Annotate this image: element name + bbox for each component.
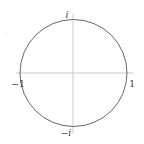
label-bottom-neg-i: −i: [61, 128, 72, 138]
stray-dot: [7, 33, 8, 34]
label-left-neg-1: −1: [11, 79, 24, 89]
label-right-1: 1: [129, 79, 135, 89]
label-top-i: i: [66, 10, 69, 20]
unit-circle-diagram: i −i −1 1: [0, 0, 144, 144]
